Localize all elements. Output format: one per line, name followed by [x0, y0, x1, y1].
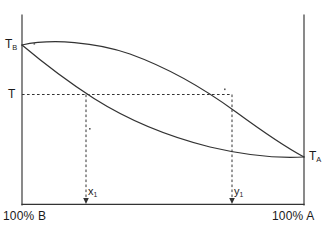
label-x1: x1 — [88, 186, 97, 197]
mark-near-y1-upper — [224, 89, 226, 91]
mark-near-TB — [34, 43, 36, 45]
x1-arrowhead — [83, 198, 89, 204]
label-x1-symbol: x — [88, 185, 94, 197]
tie-line-group — [22, 95, 232, 201]
label-right-axis-end: 100% A — [272, 210, 315, 222]
axes-group — [22, 15, 304, 205]
liquid-curve — [22, 45, 304, 157]
label-y1-subscript: 1 — [240, 191, 244, 198]
y1-arrowhead — [229, 198, 235, 204]
label-left-axis-end: 100% B — [3, 210, 46, 222]
mark-beside-x1-dropline — [89, 128, 91, 130]
label-t-b: TB — [5, 38, 17, 50]
label-t-a: TA — [309, 150, 321, 162]
label-t-symbol: T — [8, 87, 15, 101]
equilibrium-curves — [22, 42, 304, 158]
label-y1: y1 — [234, 186, 243, 197]
label-t-a-subscript: A — [316, 155, 321, 164]
label-t-b-subscript: B — [12, 43, 17, 52]
label-y1-symbol: y — [234, 185, 240, 197]
phase-diagram-figure: TB T TA x1 y1 100% B 100% A — [0, 0, 336, 233]
dropline-arrowheads — [83, 198, 235, 204]
vapour-curve — [22, 42, 304, 157]
phase-diagram-plot — [0, 0, 336, 233]
label-t: T — [8, 88, 15, 100]
label-x1-subscript: 1 — [94, 191, 98, 198]
